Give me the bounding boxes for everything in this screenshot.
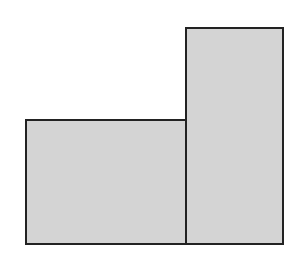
diagram-canvas: [0, 0, 307, 257]
tall-rectangle: [186, 28, 283, 244]
short-rectangle: [26, 120, 186, 244]
